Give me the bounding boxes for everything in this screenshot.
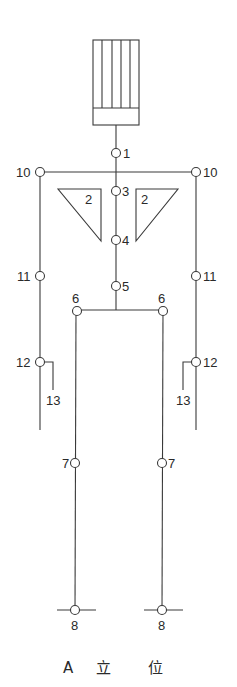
node-10-right (192, 168, 201, 177)
node-6-right (159, 307, 168, 316)
head-box (93, 40, 139, 125)
node-11-left (36, 272, 45, 281)
node-12-right (192, 358, 201, 367)
node-5 (112, 282, 121, 291)
node-1 (112, 149, 121, 158)
node-8-right (158, 606, 167, 615)
label-10-right: 10 (203, 165, 217, 180)
label-8-right: 8 (158, 618, 165, 633)
label-11-left: 11 (17, 269, 31, 284)
label-10-left: 10 (16, 165, 30, 180)
left-triangle-2 (58, 189, 101, 241)
caption-letter: A (63, 659, 74, 677)
electrode-placement-diagram: 1 10 10 2 2 3 4 5 11 11 6 6 12 12 13 13 … (0, 0, 237, 687)
label-6-right: 6 (158, 291, 165, 306)
node-4 (112, 236, 121, 245)
label-11-right: 11 (203, 269, 217, 284)
label-2-left: 2 (85, 192, 92, 207)
node-7-left (71, 459, 80, 468)
label-6-left: 6 (72, 291, 79, 306)
node-11-right (192, 272, 201, 281)
label-8-left: 8 (71, 618, 78, 633)
node-3 (112, 187, 121, 196)
label-7-left: 7 (62, 456, 69, 471)
node-7-right (158, 459, 167, 468)
label-7-right: 7 (168, 456, 175, 471)
label-4: 4 (122, 233, 129, 248)
label-13-right: 13 (176, 393, 190, 408)
head-box-outline (93, 40, 139, 125)
node-10-left (36, 168, 45, 177)
label-12-left: 12 (16, 355, 30, 370)
node-6-left (73, 307, 82, 316)
caption-char-position: 位 (148, 659, 163, 677)
label-12-right: 12 (203, 355, 217, 370)
label-13-left: 13 (46, 393, 60, 408)
label-1: 1 (123, 146, 130, 161)
label-2-right: 2 (141, 192, 148, 207)
label-5: 5 (122, 279, 129, 294)
label-3: 3 (122, 184, 129, 199)
caption-char-stand: 立 (96, 659, 111, 677)
node-8-left (71, 606, 80, 615)
node-12-left (36, 358, 45, 367)
